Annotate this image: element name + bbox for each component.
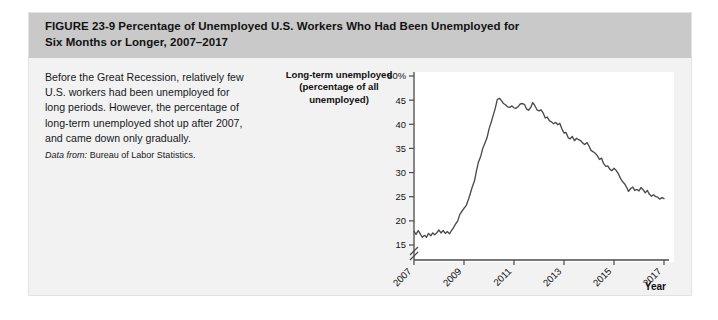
source-lead: Data from:: [45, 150, 87, 160]
figure-header-band: FIGURE 23-9Percentage of Unemployed U.S.…: [29, 13, 691, 58]
x-tick-label: 2015: [591, 266, 614, 289]
x-tick-label: 2009: [441, 266, 464, 289]
figure-number: FIGURE 23-9: [45, 20, 115, 32]
y-tick-label: 20: [396, 215, 406, 226]
y-tick-label: 35: [396, 143, 406, 154]
x-axis-title: Year: [645, 281, 666, 292]
caption-text: Before the Great Recession, relatively f…: [45, 70, 250, 146]
figure-title-line2: Six Months or Longer, 2007–2017: [45, 36, 228, 48]
y-tick-labels: 50%45403530252015: [387, 70, 406, 250]
caption-block: Before the Great Recession, relatively f…: [45, 70, 250, 160]
y-tick-label: 15: [396, 239, 406, 250]
data-series-line: [414, 98, 664, 237]
figure-title-line1: Percentage of Unemployed U.S. Workers Wh…: [118, 20, 519, 32]
y-tick-label: 45: [396, 95, 406, 106]
caption-source: Data from: Bureau of Labor Statistics.: [45, 150, 250, 160]
chart-area: Long-term unemployed (percentage of all …: [269, 64, 674, 292]
figure-container: FIGURE 23-9Percentage of Unemployed U.S.…: [29, 13, 691, 295]
x-axis: 200720092011201320152017: [391, 260, 669, 289]
x-tick-labels: 200720092011201320152017: [391, 266, 664, 289]
source-text: Bureau of Labor Statistics.: [87, 150, 195, 160]
y-tick-label: 25: [396, 191, 406, 202]
y-tick-label: 40: [396, 119, 406, 130]
figure-title: FIGURE 23-9Percentage of Unemployed U.S.…: [45, 19, 645, 50]
x-tick-label: 2007: [391, 266, 414, 289]
y-tick-marks: [409, 76, 414, 245]
x-tick-label: 2011: [491, 266, 513, 288]
y-tick-label: 50%: [387, 70, 406, 81]
x-tick-label: 2013: [541, 266, 564, 289]
y-tick-label: 30: [396, 167, 406, 178]
line-chart-svg: 50%45403530252015 2007200920112013201520…: [269, 64, 674, 292]
figure-body: Before the Great Recession, relatively f…: [29, 58, 691, 295]
x-tick-marks: [414, 260, 664, 265]
